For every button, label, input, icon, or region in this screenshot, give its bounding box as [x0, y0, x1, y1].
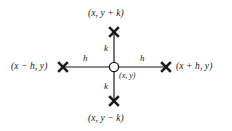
edge-label-bottom-k: k: [104, 82, 108, 91]
node-label-center: (x, y): [119, 72, 135, 80]
edge-label-left-h: h: [83, 54, 88, 63]
node-marker-center: [109, 62, 118, 71]
node-label-bottom: (x, y − k): [88, 114, 124, 124]
edge-label-top-k: k: [104, 44, 108, 53]
node-label-right: (x + h, y): [176, 62, 212, 72]
node-label-top: (x, y + k): [88, 9, 124, 19]
node-label-left: (x − h, y): [11, 62, 47, 72]
edge-label-right-h: h: [140, 54, 145, 63]
five-point-stencil-figure: (x, y + k) (x, y − k) (x − h, y) (x + h,…: [0, 0, 232, 131]
